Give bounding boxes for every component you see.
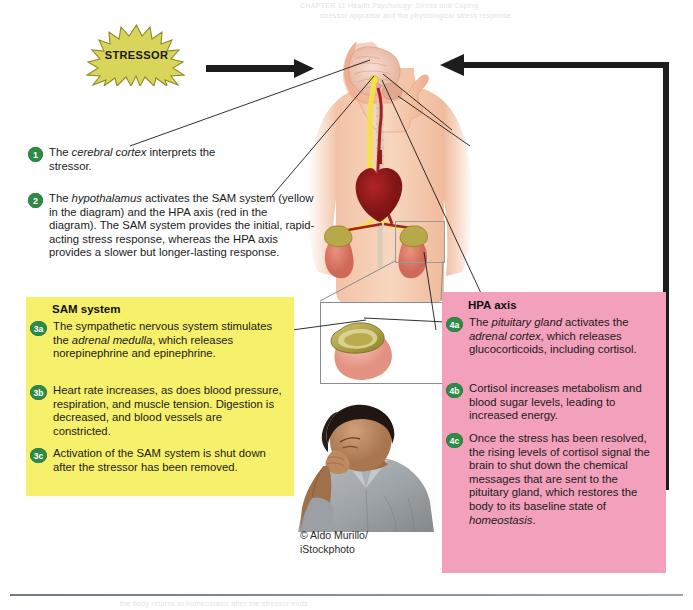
- hpa-item-4a-text: The pituitary gland activates the adrena…: [469, 316, 658, 357]
- step-2-text: The hypothalamus activates the SAM syste…: [49, 192, 316, 260]
- photo-credit-line-1: © Aldo Murillo/: [300, 528, 450, 542]
- sam-panel-title: SAM system: [52, 303, 120, 315]
- sam-item-3b-bullet: 3b: [30, 385, 47, 400]
- figure-canvas: CHAPTER 11 Health Psychology: Stress and…: [0, 0, 693, 610]
- step-2: 2 The hypothalamus activates the SAM sys…: [28, 192, 316, 260]
- hpa-item-4a: 4a The pituitary gland activates the adr…: [446, 316, 658, 357]
- sam-item-3b-text: Heart rate increases, as does blood pres…: [53, 384, 282, 438]
- hpa-item-4b-text: Cortisol increases metabolism and blood …: [469, 382, 658, 423]
- sam-item-3a-bullet: 3a: [30, 321, 47, 336]
- hpa-item-4b-bullet: 4b: [446, 383, 463, 398]
- sam-item-3c-bullet: 3c: [30, 448, 47, 463]
- hpa-item-4c-bullet: 4c: [446, 433, 463, 448]
- sam-item-3b: 3b Heart rate increases, as does blood p…: [30, 384, 282, 438]
- step-1-bullet: 1: [28, 147, 43, 162]
- sam-item-3a: 3a The sympathetic nervous system stimul…: [30, 320, 278, 361]
- hpa-item-4c-text: Once the stress has been resolved, the r…: [469, 432, 658, 527]
- hpa-panel-title: HPA axis: [468, 299, 517, 311]
- photo-credit-line-2: iStockphoto: [300, 542, 450, 556]
- hpa-item-4a-bullet: 4a: [446, 317, 463, 332]
- sam-item-3c-text: Activation of the SAM system is shut dow…: [53, 447, 278, 474]
- step-2-bullet: 2: [28, 193, 43, 208]
- sam-item-3c: 3c Activation of the SAM system is shut …: [30, 447, 278, 474]
- photo-credit: © Aldo Murillo/ iStockphoto: [300, 528, 450, 556]
- hpa-item-4c: 4c Once the stress has been resolved, th…: [446, 432, 658, 527]
- bottom-rule: [10, 594, 683, 596]
- sam-item-3a-text: The sympathetic nervous system stimulate…: [53, 320, 278, 361]
- step-1-text: The cerebral cortex interprets the stres…: [49, 146, 258, 173]
- step-1: 1 The cerebral cortex interprets the str…: [28, 146, 258, 173]
- hpa-item-4b: 4b Cortisol increases metabolism and blo…: [446, 382, 658, 423]
